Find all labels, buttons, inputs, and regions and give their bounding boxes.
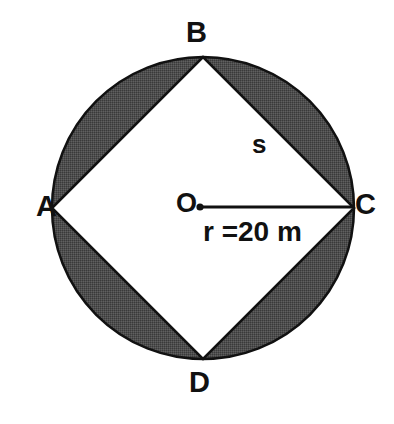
side-length-label: s — [252, 131, 266, 157]
center-label-o: O — [176, 190, 197, 217]
vertex-label-a: A — [36, 192, 57, 221]
center-point-dot — [196, 203, 203, 210]
vertex-label-c: C — [355, 190, 376, 219]
radius-measure-label: r =20 m — [203, 218, 302, 246]
vertex-label-b: B — [186, 18, 207, 47]
vertex-label-d: D — [189, 368, 210, 397]
geometry-figure: A B C D O s r =20 m — [0, 0, 394, 424]
